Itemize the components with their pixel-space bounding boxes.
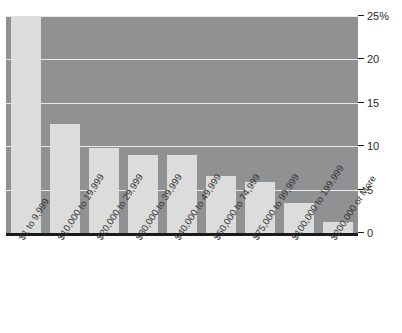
y-axis-tick: 25% [358, 10, 402, 22]
y-tick-mark [358, 102, 364, 103]
bar [11, 16, 41, 233]
bars-group [6, 16, 358, 233]
y-tick-mark [358, 15, 364, 16]
bar-chart: 25%20151050 $1 to 9,999$10,000 to 19,999… [0, 0, 402, 333]
x-axis: $1 to 9,999$10,000 to 19,999$20,000 to 2… [0, 236, 402, 333]
y-axis: 25%20151050 [358, 0, 402, 240]
y-tick-mark [358, 58, 364, 59]
y-axis-tick: 15 [358, 97, 402, 109]
y-tick-label: 10 [367, 140, 379, 152]
y-tick-label: 15 [367, 97, 379, 109]
plot-area [6, 16, 358, 233]
y-tick-label: 20 [367, 53, 379, 65]
y-tick-mark [358, 232, 364, 233]
y-axis-tick: 20 [358, 53, 402, 65]
y-tick-mark [358, 145, 364, 146]
y-tick-label: 25% [367, 10, 389, 22]
y-axis-tick: 10 [358, 140, 402, 152]
